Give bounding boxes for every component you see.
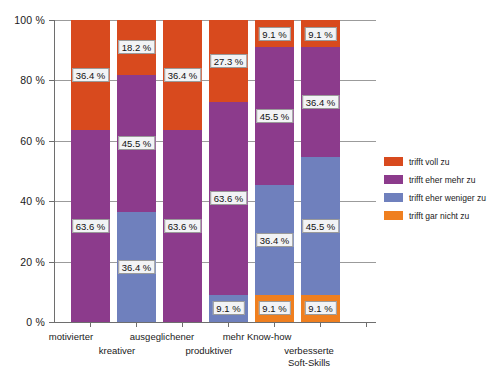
ytick-label-100: 100 % — [14, 14, 45, 26]
xtick-3 — [182, 322, 183, 327]
xtick-6 — [320, 322, 321, 327]
segment-trifft-eher-weniger-zu[interactable]: 45.5 % — [301, 157, 340, 294]
segment-trifft-voll-zu[interactable]: 18.2 % — [117, 20, 156, 75]
xlabel-kreativer: kreativer — [77, 345, 157, 356]
legend: trifft voll zu trifft eher mehr zu triff… — [384, 156, 488, 228]
segment-trifft-eher-mehr-zu[interactable]: 63.6 % — [163, 130, 202, 322]
segment-label: 9.1 % — [304, 27, 336, 41]
segment-label: 63.6 % — [72, 219, 110, 233]
segment-trifft-voll-zu[interactable]: 36.4 % — [71, 20, 110, 130]
segment-trifft-gar-nicht-zu[interactable]: 9.1 % — [255, 295, 294, 323]
legend-item-trifft-eher-mehr-zu[interactable]: trifft eher mehr zu — [384, 174, 488, 185]
legend-label: trifft eher mehr zu — [409, 175, 475, 185]
legend-label: trifft eher weniger zu — [409, 193, 486, 203]
segment-label: 27.3 % — [210, 54, 248, 68]
legend-swatch-icon — [384, 193, 403, 202]
bar-kreativer[interactable]: 36.4 % 45.5 % 18.2 % — [117, 20, 156, 322]
y-axis-line — [54, 20, 55, 323]
bar-verbesserte-soft-skills[interactable]: 9.1 % 45.5 % 36.4 % 9.1 % — [301, 20, 340, 322]
segment-trifft-eher-mehr-zu[interactable]: 63.6 % — [71, 130, 110, 322]
xlabel-verbesserte: verbesserte — [261, 345, 357, 356]
legend-label: trifft gar nicht zu — [409, 211, 469, 221]
xlabel-mehr-know-how: mehr Know-how — [209, 331, 305, 342]
segment-label: 36.4 % — [256, 233, 294, 247]
stacked-bar-chart: 100 % 80 % 60 % 40 % 20 % 0 % 63.6 % — [0, 0, 492, 376]
bar-produktiver[interactable]: 9.1 % 63.6 % 27.3 % — [209, 20, 248, 322]
legend-item-trifft-gar-nicht-zu[interactable]: trifft gar nicht zu — [384, 210, 488, 221]
segment-label: 45.5 % — [302, 219, 340, 233]
legend-swatch-icon — [384, 211, 403, 220]
segment-label: 45.5 % — [118, 136, 156, 150]
segment-label: 45.5 % — [256, 109, 294, 123]
segment-label: 9.1 % — [304, 301, 336, 315]
segment-trifft-voll-zu[interactable]: 36.4 % — [163, 20, 202, 130]
segment-trifft-eher-mehr-zu[interactable]: 45.5 % — [255, 47, 294, 184]
segment-label: 36.4 % — [302, 95, 340, 109]
xlabel-soft-skills: Soft-Skills — [261, 357, 357, 368]
xtick-4 — [228, 322, 229, 327]
xtick-1 — [90, 322, 91, 327]
ytick-label-0: 0 % — [26, 316, 45, 328]
ytick-label-40: 40 % — [20, 195, 45, 207]
xlabel-produktiver: produktiver — [169, 345, 249, 356]
segment-trifft-eher-weniger-zu[interactable]: 36.4 % — [255, 185, 294, 295]
ytick-label-20: 20 % — [20, 256, 45, 268]
segment-trifft-eher-weniger-zu[interactable]: 36.4 % — [117, 212, 156, 322]
plot-area: 100 % 80 % 60 % 40 % 20 % 0 % 63.6 % — [54, 20, 376, 322]
segment-label: 63.6 % — [210, 191, 248, 205]
segment-label: 9.1 % — [258, 27, 290, 41]
segment-label: 18.2 % — [118, 40, 156, 54]
xlabel-ausgeglichener: ausgeglichener — [117, 331, 207, 342]
legend-swatch-icon — [384, 175, 403, 184]
xtick-5 — [274, 322, 275, 327]
segment-label: 9.1 % — [212, 301, 244, 315]
xtick-2 — [136, 322, 137, 327]
segment-trifft-eher-mehr-zu[interactable]: 45.5 % — [117, 75, 156, 212]
xlabel-motivierter: motivierter — [31, 331, 111, 342]
segment-trifft-eher-mehr-zu[interactable]: 36.4 % — [301, 47, 340, 157]
segment-label: 9.1 % — [258, 301, 290, 315]
legend-swatch-icon — [384, 157, 403, 166]
segment-trifft-voll-zu[interactable]: 27.3 % — [209, 20, 248, 102]
segment-label: 63.6 % — [164, 219, 202, 233]
xtick-7 — [366, 322, 367, 327]
bar-ausgeglichener[interactable]: 63.6 % 36.4 % — [163, 20, 202, 322]
ytick-label-80: 80 % — [20, 74, 45, 86]
segment-trifft-eher-mehr-zu[interactable]: 63.6 % — [209, 102, 248, 294]
segment-trifft-voll-zu[interactable]: 9.1 % — [255, 20, 294, 47]
segment-trifft-eher-weniger-zu[interactable]: 9.1 % — [209, 295, 248, 323]
segment-label: 36.4 % — [164, 68, 202, 82]
legend-item-trifft-eher-weniger-zu[interactable]: trifft eher weniger zu — [384, 192, 488, 203]
x-axis-line — [54, 322, 376, 323]
legend-item-trifft-voll-zu[interactable]: trifft voll zu — [384, 156, 488, 167]
segment-trifft-gar-nicht-zu[interactable]: 9.1 % — [301, 295, 340, 323]
bar-motivierter[interactable]: 63.6 % 36.4 % — [71, 20, 110, 322]
segment-trifft-voll-zu[interactable]: 9.1 % — [301, 20, 340, 47]
segment-label: 36.4 % — [72, 68, 110, 82]
segment-label: 36.4 % — [118, 260, 156, 274]
bar-mehr-know-how[interactable]: 9.1 % 36.4 % 45.5 % 9.1 % — [255, 20, 294, 322]
ytick-label-60: 60 % — [20, 135, 45, 147]
legend-label: trifft voll zu — [409, 157, 449, 167]
